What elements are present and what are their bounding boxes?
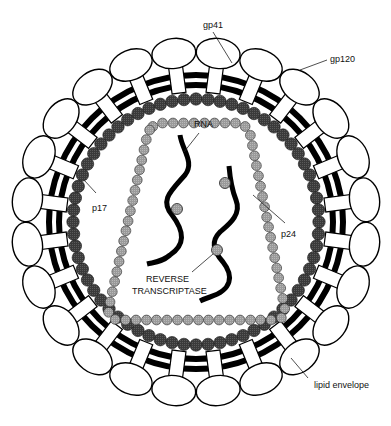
- p24-bead: [152, 315, 162, 325]
- p17-bead: [237, 329, 249, 341]
- gp120-head: [10, 176, 45, 224]
- label-p17: p17: [92, 203, 107, 213]
- p24-bead: [116, 246, 126, 256]
- p24-bead: [240, 122, 250, 132]
- label-gp120: gp120: [330, 54, 355, 64]
- p17-bead: [178, 338, 190, 350]
- p24-bead: [135, 165, 145, 175]
- p24-bead: [280, 304, 290, 314]
- label-p24: p24: [281, 229, 296, 239]
- p24-bead: [278, 294, 288, 304]
- p24-bead: [256, 315, 266, 325]
- p24-bead: [248, 141, 258, 151]
- p17-bead: [132, 107, 144, 119]
- rna-strand-right: [200, 166, 237, 301]
- p17-bead: [312, 228, 324, 240]
- leader-p17: [84, 180, 96, 193]
- rt-bead: [212, 245, 223, 256]
- p24-bead: [114, 257, 124, 267]
- p24-bead: [119, 236, 129, 246]
- p17-bead: [76, 169, 88, 181]
- p24-bead: [145, 125, 155, 135]
- p17-bead: [154, 334, 166, 346]
- gp120-head: [347, 176, 382, 224]
- p17-bead: [226, 98, 238, 110]
- p24-bead: [194, 315, 204, 325]
- label-rna: RNA: [194, 119, 213, 129]
- leader-rna: [184, 133, 199, 152]
- p24-bead: [204, 315, 214, 325]
- p17-bead: [69, 192, 81, 204]
- p17-bead: [143, 102, 155, 114]
- gp120-head: [347, 220, 382, 268]
- p17-bead: [248, 324, 260, 336]
- rna-strand-left: [147, 135, 189, 264]
- p17-bead: [67, 204, 79, 216]
- p24-bead: [276, 313, 286, 323]
- p24-bead: [270, 253, 280, 263]
- p24-bead: [162, 315, 172, 325]
- leader-gp120: [300, 60, 327, 70]
- p24-bead: [264, 222, 274, 232]
- p24-bead: [225, 315, 235, 325]
- p17-bead: [214, 95, 226, 107]
- gp120-head: [150, 36, 198, 71]
- p24-bead: [132, 175, 142, 185]
- p17-bead: [313, 216, 325, 228]
- p24-bead: [246, 315, 256, 325]
- p17-bead: [308, 252, 320, 264]
- label-reverse-transcriptase-1: REVERSE: [146, 274, 189, 284]
- p24-bead: [123, 216, 133, 226]
- p17-bead: [298, 158, 310, 170]
- p17-bead: [76, 263, 88, 275]
- p17-bead: [190, 93, 202, 105]
- p17-bead: [237, 102, 249, 114]
- p24-bead: [107, 287, 117, 297]
- p17-bead: [166, 336, 178, 348]
- glycoprotein-knobs: [10, 36, 383, 409]
- p17-bead: [143, 329, 155, 341]
- p17-bead: [67, 216, 79, 228]
- p17-bead: [303, 263, 315, 275]
- rt-bead: [172, 204, 183, 215]
- p24-bead: [274, 273, 284, 283]
- p17-bead: [214, 336, 226, 348]
- p24-bead: [125, 206, 135, 216]
- p24-bead: [266, 232, 276, 242]
- p24-bead: [252, 161, 262, 171]
- p24-bead: [110, 277, 120, 287]
- p17-bead: [310, 240, 322, 252]
- p17-bead: [72, 180, 84, 192]
- p24-bead: [245, 130, 255, 140]
- hiv-virion-diagram: gp41 gp120 RNA p17 p24 REVERSE TRANSCRIP…: [0, 0, 391, 426]
- p17-bead: [312, 204, 324, 216]
- p24-bead: [276, 283, 286, 293]
- gp120-head: [150, 373, 198, 408]
- p24-bead: [112, 267, 122, 277]
- p24-bead: [139, 145, 149, 155]
- p24-bead: [260, 202, 270, 212]
- p17-bead: [154, 98, 166, 110]
- p24-bead: [268, 243, 278, 253]
- p24-bead: [256, 181, 266, 191]
- p17-bead: [308, 180, 320, 192]
- p17-bead: [226, 334, 238, 346]
- gp120-head: [10, 220, 45, 268]
- p24-bead: [235, 315, 245, 325]
- p17-bead: [69, 240, 81, 252]
- p24-bead: [254, 171, 264, 181]
- label-gp41: gp41: [203, 20, 223, 30]
- p24-bead: [121, 226, 131, 236]
- p17-bead: [303, 169, 315, 181]
- p24-bead: [104, 307, 114, 317]
- p24-bead: [183, 315, 193, 325]
- p24-bead: [142, 315, 152, 325]
- p17-bead: [166, 95, 178, 107]
- p24-bead: [131, 315, 141, 325]
- p24-bead: [130, 185, 140, 195]
- p17-bead: [72, 252, 84, 264]
- p24-bead: [262, 212, 272, 222]
- p17-bead: [202, 93, 214, 105]
- p24-bead: [214, 315, 224, 325]
- label-reverse-transcriptase-2: TRANSCRIPTASE: [132, 286, 207, 296]
